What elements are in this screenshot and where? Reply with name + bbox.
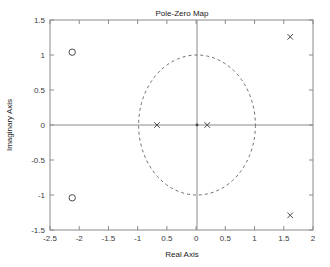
y-tick-label: -1	[38, 191, 46, 200]
x-tick-label: 0.5	[161, 234, 173, 243]
y-tick-label: 0.5	[34, 86, 46, 95]
y-tick-label: 1.5	[34, 16, 46, 25]
x-tick-label: 1	[252, 234, 257, 243]
origin-axis-lines	[50, 20, 313, 230]
x-axis-label: Real Axis	[165, 250, 198, 259]
plot-title-group: Pole-Zero Map	[156, 9, 209, 18]
plot-canvas: Pole-Zero Map -2.5-2-1.5-10.500.511.52 1…	[0, 0, 330, 267]
pole-marker	[287, 34, 293, 40]
origin-marker-group	[196, 124, 199, 127]
x-tick-label: 1.5	[278, 234, 290, 243]
x-tick-label: -1.5	[102, 234, 116, 243]
x-tick-label: -1	[134, 234, 142, 243]
x-axis-ticks: -2.5-2-1.5-10.500.511.52	[43, 20, 316, 243]
x-tick-label: 2	[311, 234, 316, 243]
y-tick-label: -0.5	[31, 156, 45, 165]
x-tick-label: 0	[194, 234, 199, 243]
x-tick-label: 0.5	[220, 234, 232, 243]
x-tick-label: -2	[76, 234, 84, 243]
y-tick-label: 1	[41, 51, 46, 60]
x-tick-label: -2.5	[43, 234, 57, 243]
data-markers-group	[69, 34, 293, 218]
zero-marker	[69, 49, 75, 55]
zero-marker	[69, 195, 75, 201]
origin-dot	[196, 124, 199, 127]
y-axis-label: Imaginary Axis	[5, 99, 14, 151]
pole-marker	[287, 213, 293, 219]
y-tick-label: 0	[41, 121, 46, 130]
pole-zero-map-figure: Pole-Zero Map -2.5-2-1.5-10.500.511.52 1…	[0, 0, 330, 267]
page-title: Pole-Zero Map	[156, 9, 209, 18]
y-tick-label: -1.5	[31, 226, 45, 235]
